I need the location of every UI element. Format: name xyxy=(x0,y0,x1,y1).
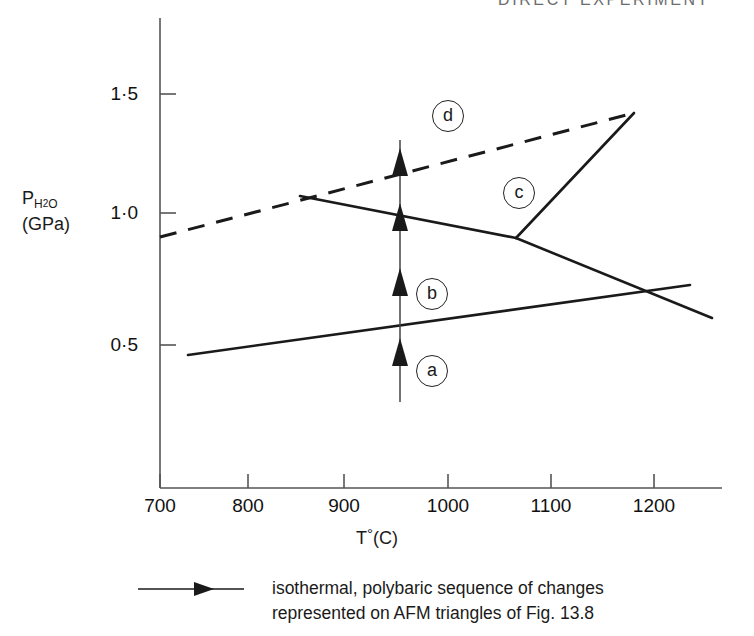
region-badge-a: a xyxy=(416,355,448,387)
x-axis-title-t: T xyxy=(356,528,367,548)
x-axis-title-unit: (C) xyxy=(373,528,398,548)
isothermal-path-annotation xyxy=(392,140,408,402)
y-axis-title: PH2O (GPa) xyxy=(22,188,70,234)
y-axis-title-p: P xyxy=(22,188,34,208)
x-tick-label-700: 700 xyxy=(120,495,200,517)
region-badge-c: c xyxy=(503,177,535,209)
legend: isothermal, polybaric sequence of change… xyxy=(136,576,604,626)
boundary-ascending-solid xyxy=(516,113,634,238)
y-axis-ticks xyxy=(160,94,176,345)
y-tick-label-0-5: 0·5 xyxy=(78,334,138,356)
x-tick-label-800: 800 xyxy=(208,495,288,517)
y-tick-label-1-0: 1·0 xyxy=(78,202,138,224)
y-axis-title-sub-h: H xyxy=(34,197,43,211)
region-badge-b: b xyxy=(416,278,448,310)
legend-line-2: represented on AFM triangles of Fig. 13.… xyxy=(272,601,604,626)
arrow-right-icon xyxy=(136,582,254,596)
x-tick-label-900: 900 xyxy=(304,495,384,517)
figure-page: DIRECT EXPERIMENT xyxy=(0,0,754,636)
region-badge-d: d xyxy=(432,100,464,132)
x-tick-label-1100: 1100 xyxy=(511,495,591,517)
legend-line-1: isothermal, polybaric sequence of change… xyxy=(272,576,604,601)
legend-text: isothermal, polybaric sequence of change… xyxy=(272,576,604,626)
y-tick-label-1-5: 1·5 xyxy=(78,83,138,105)
x-tick-label-1200: 1200 xyxy=(614,495,694,517)
x-axis-title: T°(C) xyxy=(0,525,754,549)
x-axis-ticks xyxy=(160,474,654,488)
y-axis-title-sub-o: O xyxy=(48,197,57,211)
boundary-mid-solid xyxy=(300,196,516,238)
x-tick-label-1000: 1000 xyxy=(408,495,488,517)
y-axis-unit: (GPa) xyxy=(22,214,70,235)
